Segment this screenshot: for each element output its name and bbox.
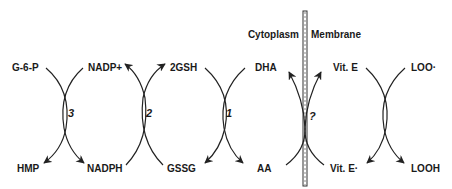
label-g6p: G-6-P (12, 62, 39, 73)
arc-g6p-to-hmp (44, 68, 67, 163)
label-vit-e: Vit. E (333, 62, 358, 73)
redox-cycle-diagram: Cytoplasm Membrane G-6-P NADP+ 2GSH DHA … (0, 0, 452, 189)
label-looh: LOOH (411, 163, 440, 174)
label-gssg: GSSG (167, 163, 196, 174)
cytoplasm-label: Cytoplasm (248, 29, 299, 40)
label-vit-e-radical: Vit. E· (330, 163, 358, 174)
label-aa: AA (257, 163, 271, 174)
reaction-unknown-label: ? (309, 110, 316, 122)
label-hmp: HMP (17, 163, 40, 174)
reaction-1-label: 1 (226, 107, 232, 119)
reaction-2-label: 2 (145, 107, 152, 119)
label-loo-radical: LOO· (411, 62, 436, 73)
reaction-3-label: 3 (68, 107, 74, 119)
arc-aa-to-dha (286, 72, 305, 165)
label-2gsh: 2GSH (170, 62, 197, 73)
membrane-label: Membrane (311, 29, 361, 40)
label-dha: DHA (255, 62, 277, 73)
membrane-bar (303, 11, 307, 186)
label-nadph: NADPH (87, 163, 123, 174)
arc-loo-to-looh (383, 68, 405, 163)
arc-vite-to-vite-radical (366, 68, 387, 163)
label-nadp-plus: NADP+ (88, 62, 122, 73)
